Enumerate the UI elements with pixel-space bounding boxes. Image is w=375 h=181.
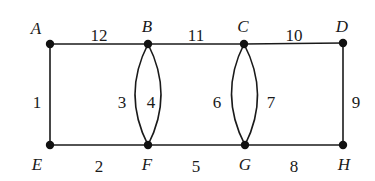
edge-weight-label: 5 <box>192 157 201 176</box>
vertices <box>46 39 347 149</box>
edge-weight-label: 4 <box>147 93 156 112</box>
vertex-D <box>339 39 347 47</box>
vertex-label-B: B <box>142 17 153 36</box>
vertex-label-F: F <box>141 155 153 174</box>
edge-weight-label: 3 <box>118 93 127 112</box>
vertex-label-D: D <box>335 17 349 36</box>
vertex-label-E: E <box>31 155 43 174</box>
edge-weight-label: 2 <box>95 157 104 176</box>
vertex-C <box>240 40 248 48</box>
vertex-label-G: G <box>239 155 251 174</box>
edge-weight-label: 12 <box>91 26 108 45</box>
labels: 121110192583467ABCDEFGH <box>30 17 360 176</box>
edge-weight-label: 1 <box>33 93 42 112</box>
edge-C-G-6 <box>231 44 245 145</box>
edge-weight-label: 9 <box>352 93 361 112</box>
vertex-A <box>46 40 54 48</box>
edge-weight-label: 7 <box>267 93 276 112</box>
vertex-label-A: A <box>30 19 42 38</box>
vertex-E <box>46 141 54 149</box>
vertex-label-C: C <box>237 17 249 36</box>
edge-weight-label: 6 <box>213 93 222 112</box>
edge-weight-label: 10 <box>286 26 303 45</box>
edge-weight-label: 8 <box>290 157 299 176</box>
vertex-B <box>144 40 152 48</box>
vertex-label-H: H <box>337 155 352 174</box>
edge-C-G-7 <box>244 44 258 145</box>
vertex-H <box>339 141 347 149</box>
vertex-F <box>144 141 152 149</box>
edges <box>50 43 343 145</box>
vertex-G <box>241 141 249 149</box>
graph-diagram: 121110192583467ABCDEFGH <box>0 0 375 181</box>
edge-weight-label: 11 <box>188 26 204 45</box>
